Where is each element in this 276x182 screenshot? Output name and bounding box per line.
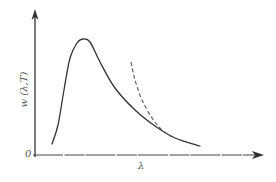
series-solid-curve: [52, 39, 200, 146]
series-dashed-curve: [131, 62, 172, 137]
y-axis-label: w (λ,T): [18, 70, 29, 110]
chart-plot: [0, 0, 276, 182]
origin-label: 0: [25, 148, 31, 159]
x-axis-label: λ: [138, 160, 144, 171]
